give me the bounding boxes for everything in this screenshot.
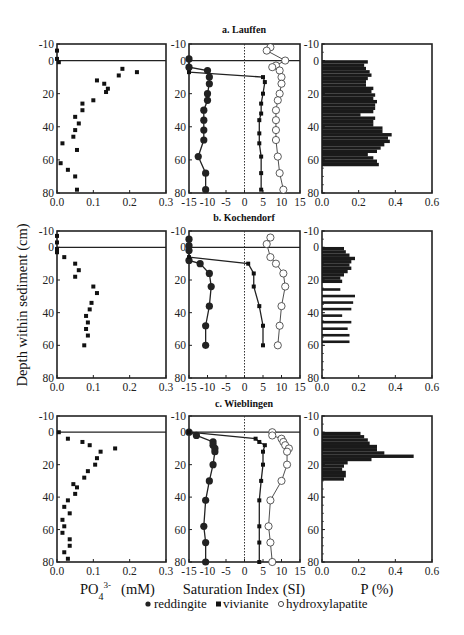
reddingite-point [202,186,209,193]
p-percent-bar [322,461,348,464]
po4-point [73,128,77,132]
po4-point [75,148,79,152]
p-percent-bar [322,276,340,279]
hydroxylapatite-point [272,136,279,143]
x-tick-label: 0.2 [351,381,366,393]
x-tick-label: -5 [221,565,231,577]
vivianite-point [259,102,263,106]
vivianite-point [259,112,263,116]
po4-point [60,531,64,535]
p-percent-bar [322,267,351,270]
p-percent-bar [322,321,351,324]
vivianite-point [257,131,261,135]
x-tick-label: 5 [260,196,266,208]
panel-title: c. Wieblingen [215,398,273,409]
p-percent-bar [322,442,370,445]
y-tick-label: 60 [43,339,55,351]
y-tick-label: 20 [43,88,55,100]
panel-a: a. Lauffen-100204060800.00.10.20.3-10020… [39,24,440,208]
saturation-plot: -10020406080-15-10-5051015 [171,225,306,393]
hydroxylapatite-marker-icon [278,601,283,606]
y-tick-label: 40 [308,491,320,503]
reddingite-line [189,239,211,345]
y-tick-label: 40 [308,121,320,133]
hydroxylapatite-point [282,283,289,290]
panel-b: b. Kochendorf-100204060800.00.10.20.3-10… [39,212,440,393]
p-percent-bar [322,93,375,96]
y-tick-label: 40 [43,491,55,503]
po4-point [104,90,108,94]
p-percent-bar [322,70,370,73]
hydroxylapatite-point [263,240,270,247]
po4-point [62,550,66,554]
x-tick-label: -5 [221,381,231,393]
p-percent-bar [322,143,384,146]
reddingite-line [189,432,215,562]
reddingite-point [185,247,192,254]
legend: reddingitevivianitehydroxylapatite [145,596,367,611]
hydroxylapatite-point [280,270,287,277]
vivianite-point [257,524,261,528]
hydroxylapatite-point [267,539,274,546]
vivianite-point [259,171,263,175]
hydroxylapatite-point [269,432,276,439]
hydroxylapatite-point [278,477,285,484]
x-tick-label: 0.2 [122,381,137,393]
x-tick-label: -10 [200,565,216,577]
x-tick-label: -5 [221,196,231,208]
po4-point [95,78,99,82]
x-tick-label: -10 [200,381,216,393]
y-tick-label: -10 [304,225,320,237]
p-percent-bar [322,77,368,80]
y-tick-label: 40 [175,121,187,133]
p-percent-bar [322,110,373,113]
po4-point [82,343,86,347]
po4-point [84,327,88,331]
p-percent-bar [322,156,373,159]
vivianite-point [187,70,191,74]
y-tick-label: 20 [308,88,320,100]
vivianite-point [252,285,256,289]
vivianite-point [259,479,263,483]
vivianite-point [259,155,263,159]
x-tick-label: 0.2 [122,196,137,208]
hydroxylapatite-point [267,497,274,504]
po4-point [62,505,66,509]
po4-point [86,469,90,473]
po4-point [84,314,88,318]
y-tick-label: -10 [304,410,320,422]
p-percent-bar [322,474,346,477]
hydroxylapatite-point [274,342,281,349]
p-percent-bar [322,448,377,451]
po4-point [82,476,86,480]
x-axis-label-po4: PO43-(mM) [80,580,155,602]
po4-point [113,446,117,450]
x-tick-label: 0.6 [425,381,440,393]
po4-point [73,115,77,119]
p-percent-bar [322,113,361,116]
y-tick-label: 60 [308,524,320,536]
reddingite-point [206,270,213,277]
vivianite-point [261,324,265,328]
p-percent-bar [322,146,381,149]
po4-point [73,262,77,266]
p-percent-bar [322,445,377,448]
reddingite-point [208,283,215,290]
po4-point [99,450,103,454]
po4-point [62,255,66,259]
vivianite-point [257,118,261,122]
y-axis-label: Depth within sediment (cm) [14,223,31,386]
vivianite-marker-icon [216,602,221,607]
p-percent-bar [322,100,377,103]
p-percent-bar [322,254,350,257]
panel-title: a. Lauffen [222,24,266,35]
x-tick-label: 10 [276,565,288,577]
po4-point [117,73,121,77]
po4-point [55,234,59,238]
x-tick-label: 5 [260,565,266,577]
po4-point [68,544,72,548]
reddingite-point [202,322,209,329]
saturation-plot: -10020406080-15-10-5051015 [171,410,306,577]
vivianite-point [259,188,263,192]
p-percent-bar [322,263,350,266]
